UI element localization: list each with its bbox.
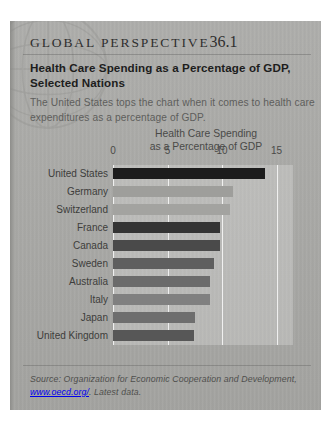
x-axis-tick-label: 15 — [271, 145, 282, 156]
chart-bar — [113, 240, 220, 251]
chart-bar-row: Australia — [113, 273, 293, 291]
source-note: Source: Organization for Economic Cooper… — [30, 373, 315, 398]
feature-kicker: GLOBAL PERSPECTIVE36.1 — [30, 33, 238, 51]
chart-title-line-1: Health Care Spending — [106, 127, 306, 140]
chart-bar-row: Canada — [113, 237, 293, 255]
chart-bar-row: Switzerland — [113, 201, 293, 219]
kicker-divider — [23, 54, 311, 55]
source-divider — [23, 365, 311, 366]
chart-bar — [113, 276, 210, 287]
chart-bar-label: Switzerland — [56, 201, 108, 219]
chart-bar — [113, 312, 195, 323]
chart-bar — [113, 258, 214, 269]
chart-bar-label: Sweden — [72, 255, 108, 273]
chart-bar — [113, 204, 230, 215]
chart-bar — [113, 186, 233, 197]
chart-bar-label: France — [77, 219, 108, 237]
chart-bar-row: Germany — [113, 183, 293, 201]
chart-bar — [113, 294, 210, 305]
chart-bar — [113, 168, 265, 179]
page-root: GLOBAL PERSPECTIVE36.1 Health Care Spend… — [0, 0, 331, 431]
chart-bar — [113, 330, 194, 341]
chart-bar-row: United States — [113, 165, 293, 183]
source-text: Organization for Economic Cooperation an… — [64, 374, 297, 384]
chart-bar-row: Italy — [113, 291, 293, 309]
chart-bar-label: Canada — [73, 237, 108, 255]
chart-plot-area: 051015United StatesGermanySwitzerlandFra… — [113, 165, 293, 345]
source-lead: Source: — [30, 374, 61, 384]
chart-bar-row: Sweden — [113, 255, 293, 273]
chart-bar-label: Germany — [67, 183, 108, 201]
feature-kicker-label: GLOBAL PERSPECTIVE — [30, 35, 210, 50]
feature-blurb: The United States tops the chart when it… — [30, 95, 318, 125]
chart-bar-label: Australia — [69, 273, 108, 291]
chart-bar-label: United Kingdom — [37, 327, 108, 345]
chart-bar-label: Japan — [81, 309, 108, 327]
x-axis-tick-label: 10 — [217, 145, 228, 156]
x-axis-tick-label: 0 — [110, 145, 116, 156]
chart-bar-row: France — [113, 219, 293, 237]
feature-title: Health Care Spending as a Percentage of … — [30, 61, 310, 90]
chart-bar-label: Italy — [90, 291, 108, 309]
bar-chart: Health Care Spending as a Percentage of … — [10, 127, 321, 357]
chart-bar — [113, 222, 220, 233]
chart-bar-row: Japan — [113, 309, 293, 327]
x-axis-tick-label: 5 — [165, 145, 171, 156]
chart-bar-label: United States — [48, 165, 108, 183]
source-suffix: . Latest data. — [89, 387, 141, 397]
feature-kicker-number: 36.1 — [210, 33, 238, 50]
source-url-link[interactable]: www.oecd.org/ — [30, 387, 89, 397]
feature-box: GLOBAL PERSPECTIVE36.1 Health Care Spend… — [10, 21, 321, 410]
chart-bar-row: United Kingdom — [113, 327, 293, 345]
